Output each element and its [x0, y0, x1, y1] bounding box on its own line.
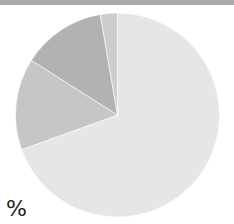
unit-label: % — [6, 198, 27, 220]
pie-chart — [0, 0, 234, 224]
